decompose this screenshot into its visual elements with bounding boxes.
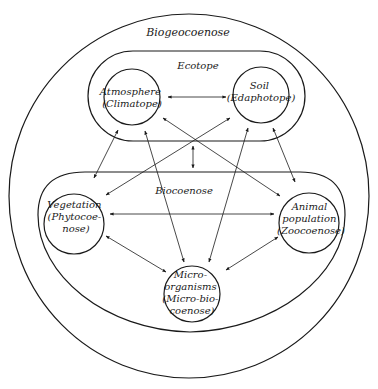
biogeocoenose-label: Biogeocoenose [145, 26, 230, 39]
soil-label: Soil (Edaphotope) [227, 80, 296, 103]
ecotope-label: Ecotope [176, 60, 218, 71]
atmosphere-label: Atmosphere (Climatope) [99, 86, 164, 109]
arrow-animal-micro [226, 237, 278, 270]
arrow-soil-animal [273, 128, 295, 182]
arrow-vegetation-micro [106, 236, 166, 272]
biogeocoenose-diagram: Biogeocoenose Ecotope Biocoenose Atmosph… [0, 0, 378, 389]
vegetation-label: Vegetation (Phytocoe- nose) [47, 199, 104, 234]
arrow-atmosphere-vegetation [94, 130, 118, 178]
animal-label: Animal population (Zoocoenose) [277, 201, 345, 236]
arrow-soil-vegetation [106, 118, 230, 195]
arrow-soil-micro [209, 128, 248, 262]
node-atmosphere [104, 69, 160, 125]
